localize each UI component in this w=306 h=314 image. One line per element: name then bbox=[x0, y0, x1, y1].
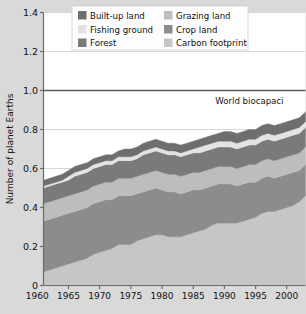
y-axis-title: Number of planet Earths bbox=[5, 93, 15, 204]
x-tick-label: 1990 bbox=[213, 291, 236, 301]
legend-label-crop-land: Crop land bbox=[176, 25, 217, 35]
legend-swatch-built-up-land bbox=[78, 11, 87, 20]
legend-swatch-fishing-ground bbox=[78, 25, 87, 34]
legend-label-built-up-land: Built-up land bbox=[90, 11, 145, 21]
chart-annotations: World biocapaci bbox=[215, 96, 283, 106]
x-tick-label: 2000 bbox=[275, 291, 298, 301]
x-tick-label: 1995 bbox=[244, 291, 267, 301]
y-tick-label: 1.4 bbox=[23, 7, 38, 18]
y-tick-label: 0.6 bbox=[23, 163, 38, 174]
legend-label-carbon-footprint: Carbon footprint bbox=[176, 38, 247, 48]
legend-swatch-grazing-land bbox=[164, 11, 173, 20]
legend-swatch-crop-land bbox=[164, 25, 173, 34]
legend-label-fishing-ground: Fishing ground bbox=[90, 25, 153, 35]
y-tick-label: 0 bbox=[32, 280, 38, 291]
legend: Built-up landGrazing landFishing groundC… bbox=[72, 6, 248, 50]
y-tick-label: 0.4 bbox=[23, 202, 38, 213]
x-tick-label: 1980 bbox=[151, 291, 174, 301]
x-tick-label: 1960 bbox=[26, 291, 49, 301]
legend-swatch-carbon-footprint bbox=[164, 39, 173, 48]
x-tick-label: 1985 bbox=[182, 291, 205, 301]
y-tick-label: 0.2 bbox=[23, 241, 38, 252]
annotation-world-biocapacity: World biocapaci bbox=[215, 96, 283, 106]
figure-container: 00.20.40.60.81.01.21.4 19601965197019751… bbox=[0, 0, 306, 314]
legend-swatch-forest bbox=[78, 39, 87, 48]
x-tick-label: 1970 bbox=[88, 291, 111, 301]
y-tick-label: 0.8 bbox=[23, 124, 38, 135]
ecological-footprint-area-chart: 00.20.40.60.81.01.21.4 19601965197019751… bbox=[0, 0, 306, 314]
x-tick-label: 1965 bbox=[57, 291, 80, 301]
legend-label-grazing-land: Grazing land bbox=[176, 11, 231, 21]
y-tick-label: 1.0 bbox=[23, 85, 38, 96]
x-tick-label: 1975 bbox=[119, 291, 142, 301]
y-axis-title-text: Number of planet Earths bbox=[5, 93, 15, 204]
legend-label-forest: Forest bbox=[90, 38, 117, 48]
y-tick-label: 1.2 bbox=[23, 46, 38, 57]
